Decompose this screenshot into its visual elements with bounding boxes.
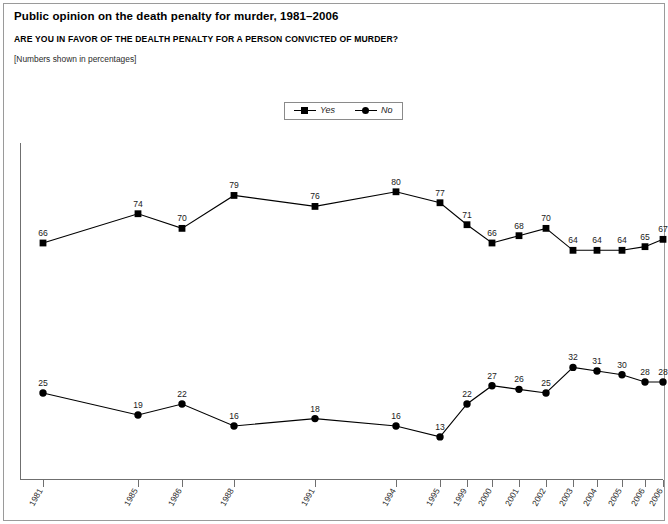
x-tick-label: 1988	[218, 486, 236, 507]
data-point-label: 67	[658, 224, 668, 234]
data-point-label: 70	[541, 213, 551, 223]
data-point-label: 64	[592, 235, 602, 245]
data-point[interactable]	[134, 411, 141, 418]
data-point[interactable]	[570, 247, 577, 254]
data-point[interactable]	[40, 240, 47, 247]
data-point-label: 65	[640, 232, 650, 242]
data-point[interactable]	[660, 236, 667, 243]
data-point[interactable]	[437, 199, 444, 206]
data-point-label: 28	[658, 367, 668, 377]
data-point-label: 16	[391, 411, 401, 421]
data-point[interactable]	[489, 240, 496, 247]
x-axis-tick-labels: 1981198519861988199119941995199920002001…	[27, 486, 665, 507]
data-point[interactable]	[641, 378, 648, 385]
data-point-label: 70	[177, 213, 187, 223]
data-point[interactable]	[311, 415, 318, 422]
x-axis-ticks	[43, 480, 663, 487]
x-tick-label: 1986	[166, 486, 184, 507]
data-point-label: 22	[462, 389, 472, 399]
data-point[interactable]	[659, 378, 666, 385]
data-point[interactable]	[231, 192, 238, 199]
data-point-label: 76	[310, 191, 320, 201]
data-point-label: 25	[38, 378, 48, 388]
data-point-label: 19	[133, 400, 143, 410]
data-point-label: 26	[514, 374, 524, 384]
x-tick-label: 1999	[451, 486, 469, 507]
data-point-label: 80	[391, 177, 401, 187]
data-point-label: 25	[541, 378, 551, 388]
x-tick-label: 2004	[581, 486, 599, 507]
data-point-label: 18	[310, 404, 320, 414]
data-point-label: 71	[462, 210, 472, 220]
data-point-label: 22	[177, 389, 187, 399]
data-point[interactable]	[488, 382, 495, 389]
data-point[interactable]	[178, 400, 185, 407]
x-tick-label: 2000	[476, 486, 494, 507]
plot-area: 1981198519861988199119941995199920002001…	[0, 0, 668, 524]
data-point-label: 32	[568, 352, 578, 362]
x-tick-label: 2006	[629, 486, 647, 507]
data-point[interactable]	[618, 371, 625, 378]
x-tick-label: 2002	[530, 486, 548, 507]
data-point-label: 27	[487, 371, 497, 381]
data-point[interactable]	[516, 232, 523, 239]
data-point[interactable]	[39, 389, 46, 396]
data-point-label: 30	[617, 360, 627, 370]
data-point-label: 64	[617, 235, 627, 245]
x-tick-label: 1985	[122, 486, 140, 507]
data-point[interactable]	[436, 433, 443, 440]
data-point[interactable]	[179, 225, 186, 232]
data-point[interactable]	[619, 247, 626, 254]
data-point[interactable]	[392, 422, 399, 429]
data-point[interactable]	[393, 188, 400, 195]
data-point-label: 68	[514, 221, 524, 231]
x-tick-label: 2001	[503, 486, 521, 507]
x-tick-label: 1991	[299, 486, 317, 507]
x-tick-label: 2006	[647, 486, 665, 507]
data-point[interactable]	[135, 210, 142, 217]
data-point[interactable]	[569, 364, 576, 371]
data-point[interactable]	[464, 221, 471, 228]
x-tick-label: 2005	[606, 486, 624, 507]
data-point-label: 16	[229, 411, 239, 421]
data-point[interactable]	[230, 422, 237, 429]
data-point[interactable]	[642, 243, 649, 250]
data-point-label: 79	[229, 180, 239, 190]
data-point[interactable]	[594, 247, 601, 254]
x-tick-label: 1981	[27, 486, 45, 507]
x-tick-label: 1994	[380, 486, 398, 507]
data-point[interactable]	[542, 389, 549, 396]
data-point-label: 31	[592, 356, 602, 366]
line-chart-svg: 1981198519861988199119941995199920002001…	[0, 0, 668, 524]
data-point-label: 77	[435, 188, 445, 198]
data-point[interactable]	[593, 367, 600, 374]
axes-group	[21, 143, 664, 480]
x-tick-label: 2003	[557, 486, 575, 507]
data-point-label: 28	[640, 367, 650, 377]
data-point-label: 74	[133, 199, 143, 209]
chart-figure: Public opinion on the death penalty for …	[0, 0, 668, 524]
data-point[interactable]	[312, 203, 319, 210]
data-point-label: 64	[568, 235, 578, 245]
x-tick-label: 1995	[424, 486, 442, 507]
data-point-label: 66	[38, 228, 48, 238]
data-point-label: 66	[487, 228, 497, 238]
data-point[interactable]	[515, 386, 522, 393]
data-point-label: 13	[435, 422, 445, 432]
data-point[interactable]	[543, 225, 550, 232]
data-point[interactable]	[463, 400, 470, 407]
